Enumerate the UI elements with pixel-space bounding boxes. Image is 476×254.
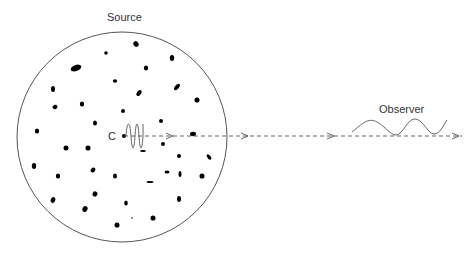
particle-blob	[170, 55, 174, 61]
particle-blob	[159, 119, 163, 123]
particle-blob	[200, 173, 205, 178]
particle-blob	[195, 97, 200, 102]
particle-blob	[50, 196, 56, 203]
particle-blob	[93, 120, 97, 125]
particle-blob	[113, 173, 117, 178]
particle-blob	[135, 89, 142, 97]
particle-blob	[190, 132, 196, 136]
particle-blob	[132, 40, 139, 48]
particle-blob	[86, 145, 91, 150]
center-label: C	[108, 130, 116, 142]
particle-blob	[140, 150, 146, 152]
particle-blob	[177, 196, 181, 202]
particle-blob	[124, 200, 128, 205]
source-particles	[32, 40, 212, 227]
particle-blob	[52, 104, 58, 110]
particle-blob	[35, 128, 39, 133]
particle-blob	[104, 51, 108, 55]
particle-blob	[90, 167, 96, 174]
observer-wave	[352, 119, 447, 135]
particle-blob	[206, 153, 212, 160]
particle-blob	[131, 217, 133, 219]
particle-blob	[144, 65, 148, 70]
diagram-canvas	[0, 0, 476, 254]
particle-blob	[51, 86, 55, 92]
particle-blob	[165, 170, 170, 173]
particle-blob	[92, 191, 99, 198]
source-circle	[17, 32, 227, 242]
particle-blob	[56, 173, 60, 178]
particle-blob	[80, 101, 84, 106]
particle-blob	[151, 215, 156, 220]
particle-blob	[121, 109, 125, 113]
particle-blob	[177, 154, 181, 158]
particle-blob	[161, 142, 165, 146]
particle-blob	[81, 205, 88, 213]
particle-blob	[147, 181, 154, 183]
particle-blob	[64, 146, 69, 151]
particle-blob	[70, 63, 82, 72]
source-label: Source	[107, 11, 142, 23]
particle-blob	[32, 163, 36, 169]
particle-blob	[179, 171, 182, 177]
particle-blob	[115, 222, 120, 227]
particle-blob	[173, 83, 181, 91]
observer-label: Observer	[379, 103, 424, 115]
particle-blob	[113, 79, 117, 83]
